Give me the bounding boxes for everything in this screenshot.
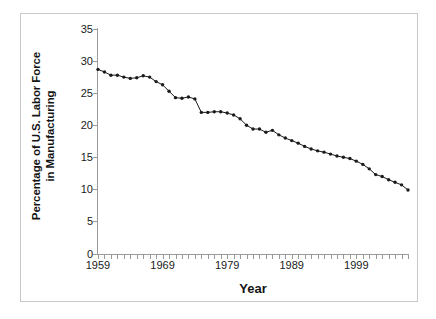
x-axis-tick-mark [156, 255, 157, 259]
data-point [387, 178, 390, 181]
y-axis-tick-mark [93, 189, 97, 190]
data-point [258, 127, 261, 130]
x-axis-tick-mark [356, 255, 357, 259]
data-point [309, 147, 312, 150]
x-axis-tick-mark [292, 255, 293, 259]
x-axis-tick-mark [240, 255, 241, 259]
series-markers [96, 68, 409, 192]
y-axis-tick-mark [93, 254, 97, 255]
x-axis-tick-mark [124, 255, 125, 259]
data-point [109, 73, 112, 76]
x-axis-tick-mark [111, 255, 112, 259]
x-axis-tick-mark [331, 255, 332, 259]
x-axis-tick-mark [150, 255, 151, 259]
x-axis-tick-mark [389, 255, 390, 259]
y-axis-tick-mark [93, 29, 97, 30]
data-point [129, 77, 132, 80]
x-axis-tick-mark [227, 255, 228, 259]
data-point [161, 83, 164, 86]
x-axis-tick-mark [305, 255, 306, 259]
data-point [135, 76, 138, 79]
x-axis-tick-mark [98, 255, 99, 259]
x-axis-title: Year [97, 281, 409, 296]
x-axis-tick-mark [169, 255, 170, 259]
data-point [122, 75, 125, 78]
x-axis-tick-mark [253, 255, 254, 259]
x-axis-tick-mark [163, 255, 164, 259]
x-axis-tick-mark [324, 255, 325, 259]
x-axis-tick-mark [130, 255, 131, 259]
y-axis-tick-mark [93, 157, 97, 158]
x-axis-tick-mark [137, 255, 138, 259]
data-point [232, 113, 235, 116]
data-point [245, 124, 248, 127]
x-axis-tick-mark [188, 255, 189, 259]
x-axis-tick-mark [337, 255, 338, 259]
data-point [213, 110, 216, 113]
x-axis-tick-mark [195, 255, 196, 259]
data-point [142, 74, 145, 77]
data-point [342, 156, 345, 159]
data-point [329, 152, 332, 155]
y-axis-tick-mark [93, 61, 97, 62]
data-point [116, 73, 119, 76]
x-axis-tick-mark [402, 255, 403, 259]
data-point [284, 136, 287, 139]
x-axis-tick-mark [143, 255, 144, 259]
chart-figure: Percentage of U.S. Labor Force in Manufa… [0, 0, 436, 319]
data-point [368, 167, 371, 170]
x-axis-tick-mark [214, 255, 215, 259]
data-point [316, 149, 319, 152]
x-axis-tick-mark [285, 255, 286, 259]
data-point [264, 131, 267, 134]
data-point [225, 111, 228, 114]
data-point [200, 111, 203, 114]
data-point [400, 183, 403, 186]
data-point [303, 145, 306, 148]
x-axis-tick-mark [363, 255, 364, 259]
data-point [206, 111, 209, 114]
x-axis-tick-mark [234, 255, 235, 259]
data-series [0, 0, 436, 319]
y-axis-tick-mark [93, 125, 97, 126]
data-point [393, 181, 396, 184]
x-axis-tick-mark [298, 255, 299, 259]
data-point [361, 163, 364, 166]
x-axis-tick-mark [266, 255, 267, 259]
data-point [355, 159, 358, 162]
data-point [271, 129, 274, 132]
data-point [154, 80, 157, 83]
data-point [277, 133, 280, 136]
x-axis-tick-mark [369, 255, 370, 259]
x-axis-tick-mark [272, 255, 273, 259]
x-axis-tick-mark [221, 255, 222, 259]
x-axis-tick-mark [408, 255, 409, 259]
data-point [335, 154, 338, 157]
x-axis-tick-mark [343, 255, 344, 259]
x-axis-tick-mark [176, 255, 177, 259]
data-point [380, 175, 383, 178]
x-axis-tick-mark [117, 255, 118, 259]
data-point [96, 68, 99, 71]
data-point [148, 75, 151, 78]
data-point [374, 173, 377, 176]
x-axis-tick-mark [259, 255, 260, 259]
data-point [406, 188, 409, 191]
x-axis-tick-mark [318, 255, 319, 259]
data-point [290, 139, 293, 142]
y-axis-tick-mark [93, 93, 97, 94]
data-point [103, 70, 106, 73]
data-point [167, 90, 170, 93]
x-axis-tick-mark [350, 255, 351, 259]
data-point [187, 95, 190, 98]
data-point [219, 110, 222, 113]
x-axis-tick-mark [182, 255, 183, 259]
x-axis-tick-mark [208, 255, 209, 259]
x-axis-tick-mark [395, 255, 396, 259]
x-axis-tick-mark [376, 255, 377, 259]
x-axis-tick-mark [104, 255, 105, 259]
x-axis-tick-mark [247, 255, 248, 259]
data-point [174, 96, 177, 99]
data-point [348, 157, 351, 160]
data-point [251, 127, 254, 130]
